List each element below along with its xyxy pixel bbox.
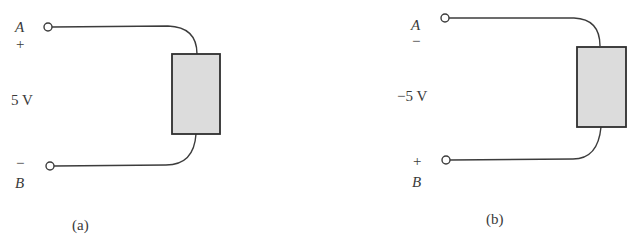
terminal-a-label: A (14, 19, 25, 35)
terminal-b-label: B (412, 174, 421, 190)
bottom-wire (54, 134, 196, 166)
voltage-label: 5 V (11, 92, 33, 108)
terminal-a-polarity: − (412, 33, 420, 49)
top-wire (449, 18, 600, 46)
voltage-label: −5 V (397, 88, 427, 104)
terminal-b-node (442, 156, 450, 164)
bottom-wire (450, 127, 601, 160)
terminal-a-node (441, 14, 449, 22)
panel-caption: (b) (486, 211, 504, 228)
terminal-a-polarity: + (16, 36, 24, 52)
circuit-figure: A + 5 V − B (a) A − −5 V + B (0, 0, 640, 243)
circuit-element-box (577, 47, 626, 127)
panel-b: A − −5 V + B (b) (397, 14, 626, 228)
panel-caption: (a) (72, 217, 89, 234)
panel-a: A + 5 V − B (a) (11, 19, 220, 234)
circuit-element-box (172, 54, 220, 134)
circuit-diagram-svg: A + 5 V − B (a) A − −5 V + B (0, 0, 640, 243)
terminal-a-node (44, 23, 52, 31)
terminal-b-polarity: − (16, 155, 24, 171)
terminal-b-label: B (15, 175, 24, 191)
terminal-b-node (46, 162, 54, 170)
terminal-a-label: A (410, 17, 421, 33)
terminal-b-polarity: + (413, 153, 421, 169)
top-wire (52, 26, 197, 54)
